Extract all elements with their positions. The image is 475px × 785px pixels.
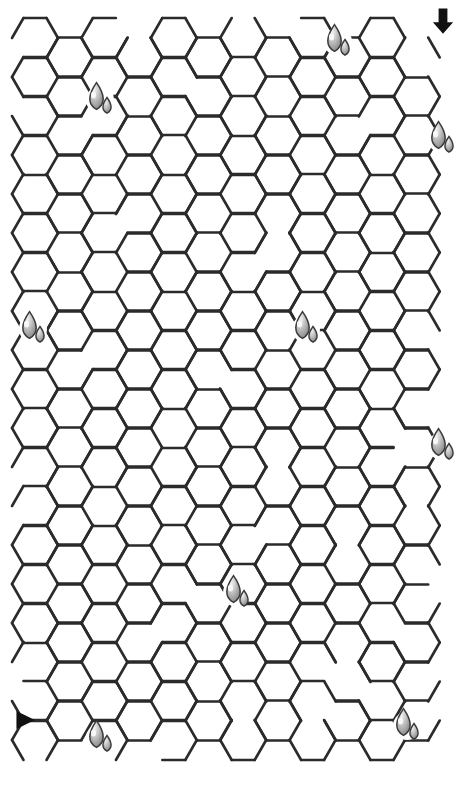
drop-highlight xyxy=(228,584,233,591)
drop-highlight xyxy=(91,729,96,736)
drop-highlight xyxy=(433,437,438,444)
honeycomb-maze-svg xyxy=(0,0,475,785)
drop-highlight xyxy=(398,717,403,724)
drop-highlight xyxy=(24,320,29,327)
maze-canvas-container xyxy=(0,0,475,785)
drop-highlight xyxy=(297,320,302,327)
drop-highlight xyxy=(433,130,438,137)
drop-highlight xyxy=(91,91,96,98)
drop-highlight xyxy=(329,33,334,40)
